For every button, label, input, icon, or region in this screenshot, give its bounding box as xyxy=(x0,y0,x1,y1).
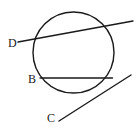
point-label-b: B xyxy=(28,73,36,85)
secant-line-through-d xyxy=(18,21,133,42)
geometry-figure: D B C xyxy=(0,0,139,132)
circle-shape xyxy=(33,12,114,93)
geometry-canvas xyxy=(0,0,139,132)
point-label-c: C xyxy=(47,112,55,124)
tangent-line-through-c xyxy=(59,75,131,121)
point-label-d: D xyxy=(8,37,17,49)
